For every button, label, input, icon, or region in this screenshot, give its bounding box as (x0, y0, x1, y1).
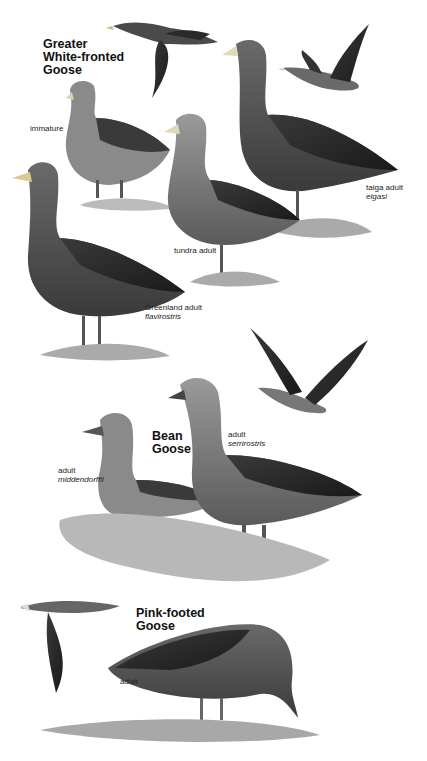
title-line: Goose (136, 620, 205, 633)
label-common: adult (58, 466, 75, 475)
label-common: adult (120, 677, 137, 686)
section-title-bean: Bean Goose (152, 430, 191, 456)
section-title-white-fronted: Greater White-fronted Goose (43, 38, 124, 77)
goose-flying-pink-footed (20, 601, 120, 693)
title-line: Goose (43, 64, 124, 77)
label-common: adult (228, 430, 245, 439)
goose-immature (66, 81, 175, 211)
label-common: taiga adult (366, 183, 403, 192)
goose-pink-footed-adult (40, 624, 320, 742)
label-common: Greenland adult (145, 303, 202, 312)
label-common: immature (30, 124, 63, 133)
label-tundra-adult: tundra adult (174, 246, 216, 255)
label-scientific: flavirostris (145, 312, 202, 321)
label-taiga-adult: taiga adult elgasi (366, 183, 403, 201)
label-pink-footed-adult: adult (120, 677, 137, 686)
label-scientific: elgasi (366, 192, 403, 201)
label-scientific: middendorffii (58, 475, 104, 484)
goose-flying-bean (250, 328, 368, 413)
goose-flying-white-fronted-2 (278, 24, 369, 91)
label-common: tundra adult (174, 246, 216, 255)
section-title-pink-footed: Pink-footed Goose (136, 607, 205, 633)
label-bean-serrirostris: adult serrirostris (228, 430, 265, 448)
label-bean-middendorffii: adult middendorffii (58, 466, 104, 484)
title-line: Goose (152, 443, 191, 456)
field-guide-plate: Greater White-fronted Goose immature tun… (0, 0, 427, 761)
label-greenland-adult: Greenland adult flavirostris (145, 303, 202, 321)
label-scientific: serrirostris (228, 439, 265, 448)
label-immature: immature (30, 124, 63, 133)
goose-illustrations (0, 0, 427, 761)
